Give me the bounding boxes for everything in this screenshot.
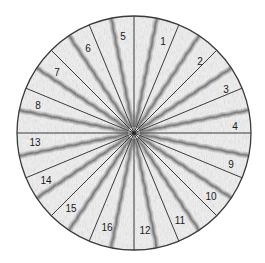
- sector-label-6: 6: [85, 44, 91, 54]
- sector-label-11: 11: [175, 216, 185, 226]
- sector-label-2: 2: [197, 57, 203, 67]
- sector-label-10: 10: [205, 192, 216, 202]
- sector-label-9: 9: [228, 160, 234, 170]
- segmented-circle-diagram: 12349101112161514138765: [0, 0, 265, 263]
- sector-label-8: 8: [35, 101, 41, 111]
- sector-label-4: 4: [232, 122, 238, 132]
- circle-graphic: [0, 0, 265, 263]
- sector-label-14: 14: [40, 176, 51, 186]
- sector-label-13: 13: [29, 138, 40, 148]
- sector-label-7: 7: [54, 68, 60, 78]
- sector-label-15: 15: [65, 204, 76, 214]
- sector-label-12: 12: [139, 226, 150, 236]
- center-point: [132, 131, 135, 134]
- sector-label-5: 5: [120, 32, 126, 42]
- sector-label-16: 16: [101, 223, 112, 233]
- sector-label-1: 1: [160, 37, 166, 47]
- sector-label-3: 3: [223, 85, 229, 95]
